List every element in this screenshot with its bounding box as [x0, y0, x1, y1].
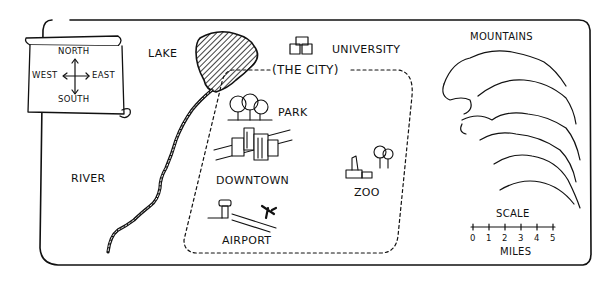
downtown-buildings-icon — [214, 128, 292, 160]
downtown-label: DOWNTOWN — [216, 174, 289, 187]
scale-tick-3: 3 — [518, 233, 524, 243]
city-boundary — [184, 70, 412, 253]
scale-tick-0: 0 — [470, 233, 476, 243]
mountains-drawing — [443, 51, 580, 208]
park-trees-icon — [228, 94, 272, 120]
park-label: PARK — [278, 106, 308, 119]
mountains-label: MOUNTAINS — [470, 31, 533, 42]
compass-west-label: WEST — [32, 70, 58, 80]
city-label: (THE CITY) — [272, 63, 339, 77]
scale-unit-label: MILES — [500, 246, 531, 257]
scale-tick-1: 1 — [486, 233, 492, 243]
university-icon — [290, 37, 312, 54]
lake-label: LAKE — [148, 47, 177, 60]
river-label: RIVER — [71, 172, 106, 185]
compass-north-label: NORTH — [58, 46, 89, 56]
scale-tick-4: 4 — [534, 233, 540, 243]
university-label: UNIVERSITY — [332, 43, 400, 56]
scale-tick-5: 5 — [550, 233, 556, 243]
airport-icon — [208, 200, 276, 232]
zoo-icon — [346, 146, 393, 178]
scale-bar — [471, 224, 555, 230]
lake-shape — [196, 32, 258, 92]
zoo-label: ZOO — [354, 186, 380, 199]
airport-label: AIRPORT — [222, 234, 271, 247]
scale-tick-2: 2 — [502, 233, 508, 243]
compass-south-label: SOUTH — [58, 94, 89, 104]
compass-east-label: EAST — [92, 70, 115, 80]
scale-title: SCALE — [496, 208, 530, 219]
